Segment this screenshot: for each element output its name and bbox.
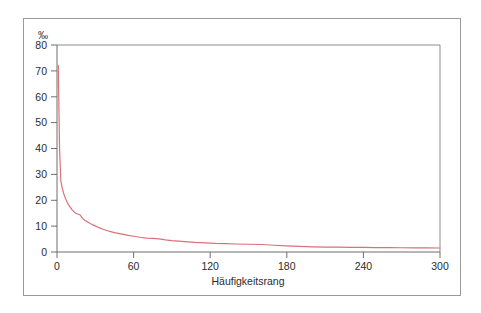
x-tick-label: 0	[54, 260, 60, 272]
y-tick-label: 0	[41, 246, 47, 258]
x-tick-label: 120	[201, 260, 219, 272]
page-canvas: ‰ 80 70 60 50 40 30 20	[0, 0, 481, 313]
y-axis-tick-labels: 80 70 60 50 40 30 20 10 0	[35, 39, 47, 258]
y-tick-label: 70	[35, 65, 47, 77]
y-tick-label: 40	[35, 142, 47, 154]
y-tick-label: 60	[35, 91, 47, 103]
frequency-curve	[58, 66, 440, 248]
y-tick-label: 20	[35, 194, 47, 206]
x-tick-label: 180	[278, 260, 296, 272]
x-tick-label: 300	[431, 260, 449, 272]
x-tick-label: 240	[355, 260, 373, 272]
x-tick-label: 60	[128, 260, 140, 272]
frequency-rank-chart: ‰ 80 70 60 50 40 30 20	[0, 0, 481, 313]
y-axis-ticks	[51, 45, 57, 252]
x-axis-ticks	[57, 252, 440, 258]
x-axis-tick-labels: 0 60 120 180 240 300	[54, 260, 449, 272]
y-tick-label: 50	[35, 116, 47, 128]
x-axis-title: Häufigkeitsrang	[212, 275, 285, 287]
y-tick-label: 80	[35, 39, 47, 51]
y-tick-label: 10	[35, 220, 47, 232]
plot-frame	[57, 45, 440, 252]
chart-svg: ‰ 80 70 60 50 40 30 20	[0, 0, 481, 313]
y-tick-label: 30	[35, 168, 47, 180]
